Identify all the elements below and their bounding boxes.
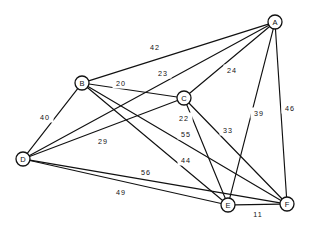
graph-diagram: ABCDEF 422320244022333946295544564911 [0,0,313,226]
edge-weight-df: 56 [141,168,151,177]
graph-node-d[interactable]: D [16,152,30,166]
edge-weight-bc: 20 [116,79,126,88]
node-label-e: E [225,201,230,210]
graph-edge-ef [235,204,280,205]
node-label-c: C [181,94,187,103]
graph-node-e[interactable]: E [221,198,235,212]
edge-weight-ce: 22 [179,114,189,123]
graph-node-f[interactable]: F [280,197,294,211]
graph-canvas-svg: ABCDEF 422320244022333946295544564911 [0,0,313,226]
graph-edge-df [30,160,280,203]
graph-edge-dc [30,100,178,156]
edge-weight-bf: 29 [98,137,108,146]
node-label-f: F [285,200,290,209]
node-label-a: A [272,18,277,27]
graph-edge-ab [89,24,269,81]
edge-weight-ae: 39 [254,109,264,118]
edge-weight-bd: 40 [40,113,50,122]
edge-weight-af: 46 [285,104,295,113]
graph-node-a[interactable]: A [268,15,282,29]
edge-weight-ac: 24 [227,66,237,75]
edge-weight-be: 44 [181,156,191,165]
graph-node-c[interactable]: C [177,91,191,105]
edge-weight-cf: 33 [223,126,233,135]
graph-node-b[interactable]: B [75,76,89,90]
edge-weight-ad: 23 [158,69,168,78]
node-label-b: B [79,79,84,88]
edge-weight-dc: 55 [181,130,191,139]
edge-weight-ef: 11 [253,210,263,219]
edge-weight-de: 49 [116,188,126,197]
edge-weight-ab: 42 [150,43,160,52]
node-label-d: D [20,155,26,164]
